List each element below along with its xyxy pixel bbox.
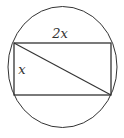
inscribed-rectangle-diagram: 2x x [0,0,124,138]
rectangle-diagonal [14,43,111,95]
left-side-label: x [18,62,26,77]
top-side-label: 2x [51,26,68,41]
